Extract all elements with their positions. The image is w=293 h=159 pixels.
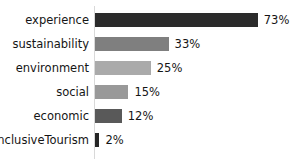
bar-track: 12% (95, 104, 293, 128)
bar-row: social15% (0, 80, 293, 104)
bar-chart: experience73%sustainability33%environmen… (0, 0, 293, 159)
bar-category-label: social (56, 80, 94, 104)
bar-fill (95, 13, 258, 27)
bar-category-label: environment (16, 56, 94, 80)
bar-fill (95, 85, 128, 99)
bar-track: 15% (95, 80, 293, 104)
bar-track: 73% (95, 8, 293, 32)
bar-fill (95, 61, 151, 75)
bar-value-label: 33% (169, 32, 201, 56)
bar-value-label: 15% (128, 80, 160, 104)
plot-area: experience73%sustainability33%environmen… (0, 8, 293, 159)
bar-value-label: 25% (151, 56, 183, 80)
bar-fill (95, 37, 169, 51)
bar-row: InclusiveTourism2% (0, 128, 293, 152)
bar-value-label: 12% (122, 104, 154, 128)
bar-category-label: InclusiveTourism (0, 128, 94, 152)
bar-row: sustainability33% (0, 32, 293, 56)
bar-row: economic12% (0, 104, 293, 128)
bar-row: experience73% (0, 8, 293, 32)
bar-track: 25% (95, 56, 293, 80)
bar-value-label: 73% (258, 8, 290, 32)
bar-category-label: economic (34, 104, 94, 128)
bar-value-label: 2% (99, 128, 123, 152)
bar-track: 33% (95, 32, 293, 56)
bar-category-label: sustainability (12, 32, 94, 56)
bar-category-label: experience (25, 8, 94, 32)
bar-fill (95, 109, 122, 123)
bar-track: 2% (95, 128, 293, 152)
bar-row: environment25% (0, 56, 293, 80)
